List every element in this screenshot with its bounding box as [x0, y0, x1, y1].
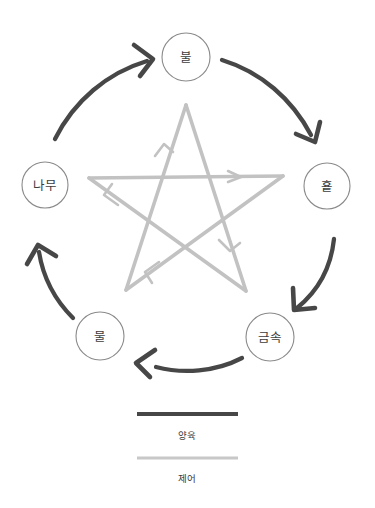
- diagram-canvas: 불 훁 금속 물 나무 양육 제어: [0, 0, 375, 508]
- five-elements-diagram: 불 훁 금속 물 나무 양육 제어: [0, 0, 375, 508]
- generating-edge-fire-earth: [222, 60, 311, 135]
- control-arrowhead-lower-leg: [189, 279, 202, 293]
- control-edge-lower-left-leg: [126, 290, 246, 291]
- node-earth[interactable]: 훁: [304, 163, 350, 209]
- node-wood[interactable]: 나무: [22, 162, 68, 208]
- generating-arrowhead-metal-water: [136, 350, 155, 377]
- node-fire[interactable]: 불: [162, 33, 210, 81]
- generating-edge-metal-water: [156, 358, 242, 371]
- node-fire-label: 불: [180, 50, 192, 65]
- control-edge-fire-metal: [186, 105, 246, 291]
- node-water-label: 물: [94, 329, 106, 344]
- control-edge-earth-water: [126, 176, 283, 290]
- control-edge-wood-earth: [89, 176, 283, 178]
- legend-label-nurture: 양육: [178, 430, 196, 441]
- node-earth-label: 훁: [321, 179, 333, 194]
- control-cycle-group: [89, 105, 283, 293]
- legend-label-control: 제어: [178, 473, 196, 484]
- node-wood-label: 나무: [33, 178, 57, 193]
- control-edge-metal-wood: [89, 178, 246, 291]
- generating-edge-water-wood: [39, 252, 73, 318]
- generating-edge-wood-fire: [55, 61, 147, 139]
- legend-item-control: 제어: [137, 458, 238, 484]
- legend: 양육 제어: [137, 414, 238, 484]
- legend-item-nurture: 양육: [137, 414, 238, 441]
- node-metal-label: 금속: [258, 330, 282, 345]
- node-metal[interactable]: 금속: [246, 313, 294, 361]
- node-water[interactable]: 물: [76, 312, 124, 360]
- generating-edge-earth-metal: [297, 239, 334, 308]
- control-edge-water-fire: [126, 105, 186, 290]
